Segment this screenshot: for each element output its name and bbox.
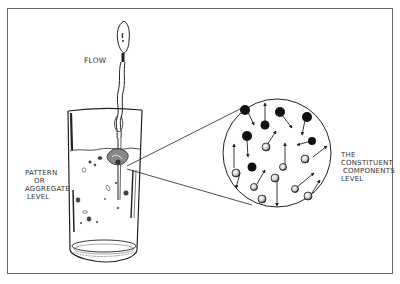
- pattern-line-3: AGGREGATE: [25, 185, 70, 193]
- constituent-line-4: LEVEL: [341, 175, 395, 183]
- illustration: [0, 0, 400, 284]
- pattern-level-label: PATTERN OR AGGREGATE LEVEL: [25, 169, 70, 201]
- spoon-icon: [117, 21, 129, 62]
- constituent-line-1: THE: [341, 151, 395, 159]
- constituent-level-label: THE CONSTITUENT COMPONENTS LEVEL: [341, 151, 395, 183]
- constituent-line-2: CONSTITUENT: [341, 159, 395, 167]
- constituent-line-3: COMPONENTS: [341, 167, 395, 175]
- flow-label: FLOW: [84, 57, 106, 65]
- stream-icon: [115, 62, 125, 200]
- pattern-line-2: OR: [25, 177, 70, 185]
- pattern-line-1: PATTERN: [25, 169, 70, 177]
- glass-icon: [68, 109, 142, 262]
- pattern-line-4: LEVEL: [25, 193, 70, 201]
- aggregate-lump: [107, 149, 128, 165]
